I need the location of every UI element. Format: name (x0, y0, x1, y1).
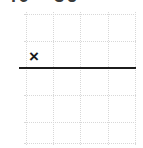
gridline-vertical (108, 12, 109, 145)
gridline-horizontal (24, 14, 136, 15)
multiplication-sign-icon: × (25, 47, 43, 67)
gridline-horizontal (24, 143, 136, 144)
gridline-horizontal (24, 95, 136, 96)
gridline-vertical (135, 12, 136, 145)
answer-rule (19, 67, 136, 69)
gridline-vertical (53, 12, 54, 145)
gridline-horizontal (24, 122, 136, 123)
dotted-grid (0, 0, 143, 148)
gridline-vertical (80, 12, 81, 145)
math-worksheet-canvas: 40 - 36 × (0, 0, 143, 148)
gridline-vertical (26, 12, 27, 145)
gridline-horizontal (24, 41, 136, 42)
